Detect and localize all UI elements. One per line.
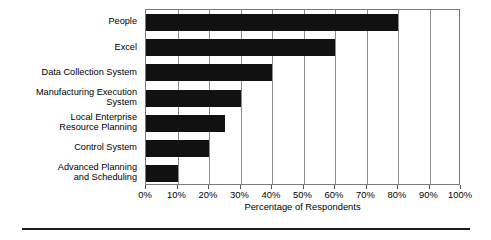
bottom-divider-rule xyxy=(22,228,470,230)
category-label: Excel xyxy=(0,42,137,52)
bar xyxy=(146,165,178,182)
bar xyxy=(146,90,241,107)
x-axis-title: Percentage of Respondents xyxy=(145,201,460,212)
bar xyxy=(146,39,335,56)
category-label: Manufacturing Execution System xyxy=(0,87,137,108)
category-axis-labels: PeopleExcelData Collection SystemManufac… xyxy=(0,9,141,185)
plot-area xyxy=(145,9,460,185)
x-tick-label: 100% xyxy=(440,189,480,200)
bar xyxy=(146,64,272,81)
category-label: People xyxy=(0,16,137,26)
category-label: Data Collection System xyxy=(0,67,137,77)
category-label: Local Enterprise Resource Planning xyxy=(0,112,137,133)
bar xyxy=(146,115,225,132)
category-label: Advanced Planning and Scheduling xyxy=(0,162,137,183)
category-label: Control System xyxy=(0,142,137,152)
x-axis-ticks: 0%10%20%30%40%50%60%70%80%90%100% xyxy=(145,185,460,201)
bar-series xyxy=(146,10,459,184)
bar xyxy=(146,14,398,31)
bar xyxy=(146,140,209,157)
bar-chart-figure: PeopleExcelData Collection SystemManufac… xyxy=(0,0,491,240)
